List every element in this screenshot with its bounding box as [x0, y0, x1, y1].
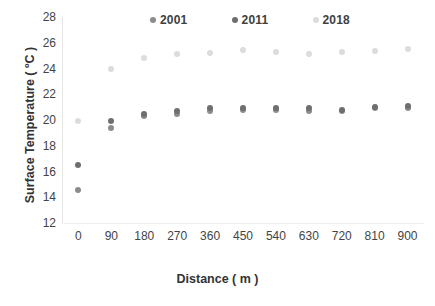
- data-point-2018: [174, 51, 180, 57]
- y-tick-label: 12: [43, 216, 56, 230]
- y-tick-label: 20: [43, 113, 56, 127]
- x-axis-line: [62, 223, 424, 224]
- data-point-2018: [207, 50, 213, 56]
- x-tick-label: 720: [332, 229, 352, 243]
- x-tick-label: 270: [167, 229, 187, 243]
- x-tick-label: 90: [105, 229, 118, 243]
- data-point-2011: [306, 105, 312, 111]
- data-point-2001: [75, 187, 81, 193]
- data-point-2011: [75, 162, 81, 168]
- x-tick-label: 630: [299, 229, 319, 243]
- x-tick-label: 900: [398, 229, 418, 243]
- data-point-2011: [141, 111, 147, 117]
- y-tick-label: 16: [43, 165, 56, 179]
- y-tick-label: 18: [43, 139, 56, 153]
- data-point-2011: [339, 107, 345, 113]
- data-point-2018: [306, 51, 312, 57]
- data-point-2001: [108, 125, 114, 131]
- data-point-2018: [108, 66, 114, 72]
- y-tick-label: 22: [43, 87, 56, 101]
- y-axis-title: Surface Temperature ( ºC ): [23, 15, 37, 235]
- data-point-2011: [372, 104, 378, 110]
- x-tick-label: 540: [266, 229, 286, 243]
- x-tick-label: 450: [233, 229, 253, 243]
- x-axis-title: Distance ( m ): [0, 272, 435, 286]
- plot-area: 121416182022242628 090180270360450540630…: [62, 17, 424, 223]
- x-tick-label: 810: [365, 229, 385, 243]
- data-point-2018: [372, 48, 378, 54]
- data-point-2011: [174, 108, 180, 114]
- chart-figure: 2001 2011 2018 Surface Temperature ( ºC …: [0, 0, 435, 306]
- data-point-2018: [141, 55, 147, 61]
- data-point-2011: [405, 103, 411, 109]
- data-point-2018: [405, 46, 411, 52]
- data-point-2011: [207, 105, 213, 111]
- data-point-2018: [240, 47, 246, 53]
- y-tick-label: 28: [43, 10, 56, 24]
- y-tick-label: 24: [43, 62, 56, 76]
- data-point-2011: [273, 105, 279, 111]
- data-point-2018: [75, 118, 81, 124]
- y-tick-label: 26: [43, 36, 56, 50]
- data-point-2018: [339, 49, 345, 55]
- data-point-2011: [240, 105, 246, 111]
- data-point-2011: [108, 118, 114, 124]
- x-tick-label: 180: [134, 229, 154, 243]
- x-tick-label: 360: [200, 229, 220, 243]
- y-tick-label: 14: [43, 190, 56, 204]
- data-point-2018: [273, 49, 279, 55]
- x-tick-label: 0: [75, 229, 82, 243]
